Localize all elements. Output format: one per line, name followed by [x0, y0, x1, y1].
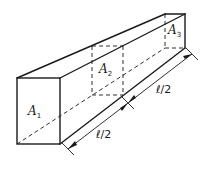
- arrow-icon: [68, 141, 77, 149]
- label-a1: A1: [27, 104, 41, 120]
- arrow-icon: [183, 54, 192, 59]
- top-left-edge: [17, 14, 165, 78]
- dimension-label-second-half: ℓ/2: [155, 83, 171, 96]
- dimension-label-first-half: ℓ/2: [95, 128, 111, 141]
- arrow-icon: [120, 103, 128, 111]
- front-face-a1: [17, 78, 60, 144]
- arrow-icon: [128, 95, 136, 103]
- bar-diagram: A1 A2 A3 ℓ/2 ℓ/2: [0, 0, 207, 169]
- label-a3: A3: [167, 23, 181, 39]
- bottom-right-edge: [60, 48, 185, 144]
- label-a2: A2: [98, 62, 112, 78]
